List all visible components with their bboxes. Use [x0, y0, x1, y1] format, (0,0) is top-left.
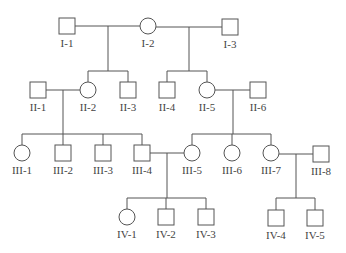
individual-label: IV-1: [117, 228, 137, 240]
male-square-icon: [307, 210, 323, 226]
individual-ii-1: II-1: [30, 82, 47, 113]
individual-label: IV-4: [266, 229, 286, 241]
individual-iii-1: III-1: [12, 145, 32, 176]
female-circle-icon: [14, 145, 30, 161]
male-square-icon: [313, 146, 329, 162]
individual-label: II-4: [159, 101, 176, 113]
male-square-icon: [158, 209, 174, 225]
male-square-icon: [159, 82, 175, 98]
individual-label: IV-3: [196, 228, 216, 240]
individual-ii-4: II-4: [159, 82, 176, 113]
individual-iv-1: IV-1: [117, 209, 137, 240]
individual-iv-5: IV-5: [305, 210, 325, 241]
female-circle-icon: [119, 209, 135, 225]
individual-label: II-1: [30, 101, 47, 113]
individual-iv-4: IV-4: [266, 210, 286, 241]
individual-iii-8: III-8: [311, 146, 332, 177]
individual-label: IV-5: [305, 229, 325, 241]
individual-ii-6: II-6: [250, 82, 267, 113]
male-square-icon: [250, 82, 266, 98]
individual-ii-5: II-5: [199, 82, 216, 113]
individual-i-3: I-3: [222, 19, 238, 50]
female-circle-icon: [263, 145, 279, 161]
individual-label: III-6: [222, 164, 243, 176]
individual-i-2: I-2: [140, 18, 156, 49]
male-square-icon: [30, 82, 46, 98]
male-square-icon: [134, 145, 150, 161]
pedigree-diagram: I-1I-2I-3II-1II-2II-3II-4II-5II-6III-1II…: [0, 0, 346, 253]
individual-label: III-3: [93, 164, 114, 176]
individual-label: II-6: [250, 101, 267, 113]
individual-iii-4: III-4: [132, 145, 153, 176]
individual-label: II-5: [199, 101, 216, 113]
individual-label: III-2: [53, 164, 73, 176]
individual-iv-2: IV-2: [156, 209, 176, 240]
individual-i-1: I-1: [59, 18, 75, 49]
individual-label: III-7: [261, 164, 282, 176]
individual-iii-2: III-2: [53, 145, 73, 176]
individual-label: I-3: [224, 38, 237, 50]
individual-label: III-4: [132, 164, 153, 176]
male-square-icon: [198, 209, 214, 225]
individual-iii-7: III-7: [261, 145, 282, 176]
male-square-icon: [95, 145, 111, 161]
individual-iv-3: IV-3: [196, 209, 216, 240]
individual-label: III-1: [12, 164, 32, 176]
individual-label: IV-2: [156, 228, 176, 240]
female-circle-icon: [184, 145, 200, 161]
individual-iii-5: III-5: [182, 145, 203, 176]
female-circle-icon: [80, 82, 96, 98]
individual-ii-2: II-2: [80, 82, 97, 113]
individual-iii-3: III-3: [93, 145, 114, 176]
individual-iii-6: III-6: [222, 145, 243, 176]
pedigree-lines: [22, 26, 315, 210]
individual-label: III-5: [182, 164, 203, 176]
pedigree-individuals: I-1I-2I-3II-1II-2II-3II-4II-5II-6III-1II…: [12, 18, 332, 241]
female-circle-icon: [140, 18, 156, 34]
male-square-icon: [268, 210, 284, 226]
individual-label: II-2: [80, 101, 97, 113]
male-square-icon: [222, 19, 238, 35]
individual-label: I-1: [61, 37, 74, 49]
individual-label: I-2: [142, 37, 155, 49]
individual-label: II-3: [120, 101, 137, 113]
female-circle-icon: [199, 82, 215, 98]
male-square-icon: [120, 82, 136, 98]
female-circle-icon: [224, 145, 240, 161]
male-square-icon: [55, 145, 71, 161]
male-square-icon: [59, 18, 75, 34]
individual-label: III-8: [311, 165, 332, 177]
individual-ii-3: II-3: [120, 82, 137, 113]
